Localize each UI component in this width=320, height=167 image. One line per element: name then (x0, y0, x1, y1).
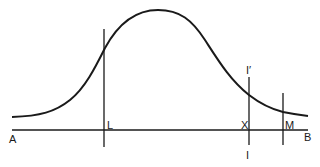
label-m: M (285, 119, 294, 131)
label-b: B (304, 131, 311, 143)
label-a: A (9, 133, 17, 145)
label-l: L (107, 119, 113, 131)
label-i: I (246, 149, 249, 161)
label-i-prime: I′ (246, 64, 251, 76)
label-x: X (241, 119, 249, 131)
bell-curve (12, 10, 308, 117)
diagram-canvas: A B L X M I′ I (0, 0, 320, 167)
